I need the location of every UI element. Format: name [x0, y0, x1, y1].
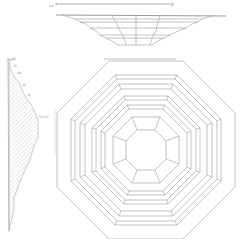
section-label-3: 40: [17, 71, 21, 75]
plan-ring-5: [101, 105, 191, 195]
plan-ring-3: [80, 84, 212, 216]
section-label-6: 52 5 5: [39, 115, 49, 119]
section-label-4: 36: [22, 83, 26, 87]
section-label-1: 90: [12, 57, 16, 61]
elevation-dim-left: 4.0: [49, 4, 54, 8]
section-view: 90 45 40 36 25 52 5 5: [8, 57, 55, 232]
technical-drawing: 4.0 1 -.90 90 45 40 36 25 52 5 5: [0, 0, 242, 239]
elevation-profile: [62, 15, 212, 45]
elevation-view: 4.0 1 -.90: [6, 3, 226, 63]
plan-view: [57, 61, 235, 239]
plan-ring-1: [57, 61, 235, 239]
plan-facets: [71, 75, 221, 225]
plan-ring-2: [71, 75, 221, 225]
elevation-dim-right: 1: [171, 4, 173, 8]
section-label-5: 25: [27, 93, 31, 97]
section-label-2: 45: [13, 64, 17, 68]
section-profile: [9, 62, 38, 230]
elevation-rim: [56, 15, 226, 16]
plan-center: [126, 130, 166, 170]
plan-ring-4: [92, 96, 200, 204]
plan-ring-6: [113, 117, 179, 183]
